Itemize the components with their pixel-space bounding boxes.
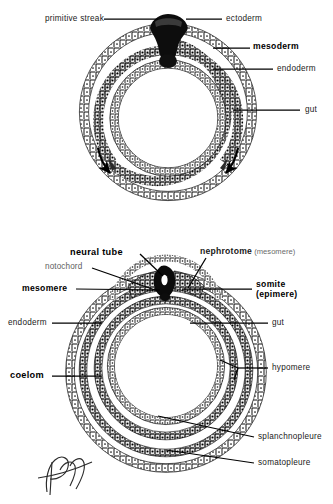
label-endoderm-upper: endoderm: [277, 64, 316, 73]
label-somatopleure: somatopleure: [258, 458, 311, 467]
label-endoderm-lower: endoderm: [8, 318, 47, 327]
label-somite-term: somite: [256, 279, 286, 289]
lower-panel-drawing: [38, 254, 268, 495]
gut-cavity-upper: [119, 69, 217, 167]
label-coelom: coelom: [10, 370, 44, 380]
label-mesomere: mesomere: [22, 284, 67, 294]
label-hypomere: hypomere: [272, 363, 310, 372]
figure-canvas: primitive streak ectoderm mesoderm endod…: [0, 0, 333, 504]
label-mesoderm: mesoderm: [253, 42, 299, 52]
label-somite: somite (epimere): [256, 280, 297, 299]
label-nephrotome: nephrotome (mesomere): [200, 247, 295, 257]
label-nephrotome-qualifier: (mesomere): [252, 247, 295, 256]
label-neural-tube: neural tube: [70, 247, 123, 257]
notochord-body: [160, 293, 170, 301]
label-nephrotome-term: nephrotome: [200, 246, 252, 256]
artist-signature: [38, 457, 92, 495]
label-gut-lower: gut: [272, 318, 284, 327]
label-gut-upper: gut: [305, 105, 317, 114]
label-splanchnopleure: splanchnopleure: [258, 432, 322, 441]
label-notochord: notochord: [45, 262, 82, 271]
label-primitive-streak: primitive streak: [24, 14, 104, 23]
label-ectoderm-upper: ectoderm: [226, 14, 262, 23]
gut-cavity-lower: [115, 315, 217, 417]
label-somite-qualifier: (epimere): [256, 290, 297, 300]
